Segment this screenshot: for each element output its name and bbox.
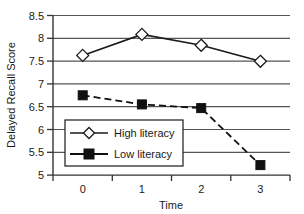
y-tick-label-6_5: 6.5: [29, 101, 44, 113]
x-tick-label-0: 0: [80, 183, 86, 195]
y-tick-label-8: 8: [38, 32, 44, 44]
x-tick-label-1: 1: [139, 183, 145, 195]
x-tick-label-2: 2: [198, 183, 204, 195]
low-literacy-point-2: [197, 104, 206, 113]
y-tick-label-5_5: 5.5: [29, 146, 44, 158]
delayed-recall-score-line-chart: 8.5 8 7.5 7 6.5 6 5.5 5 0 1 2 3 Time Del…: [0, 0, 304, 214]
chart-legend[interactable]: High literacy Low literacy: [65, 120, 183, 166]
y-axis-title: Delayed Recall Score: [5, 42, 17, 148]
low-literacy-point-1: [137, 100, 146, 109]
chart-figure: 8.5 8 7.5 7 6.5 6 5.5 5 0 1 2 3 Time Del…: [0, 0, 304, 214]
legend-entry-low-literacy[interactable]: Low literacy: [70, 148, 173, 160]
y-tick-label-5: 5: [38, 169, 44, 181]
y-tick-label-7: 7: [38, 78, 44, 90]
y-tick-label-8_5: 8.5: [29, 10, 44, 22]
x-axis-title: Time: [159, 199, 183, 211]
low-literacy-point-0: [78, 91, 87, 100]
y-tick-label-7_5: 7.5: [29, 55, 44, 67]
filled-square-icon: [84, 149, 94, 159]
x-tick-label-3: 3: [257, 183, 263, 195]
legend-label-low-literacy: Low literacy: [114, 148, 173, 160]
legend-label-high-literacy: High literacy: [114, 127, 175, 139]
low-literacy-point-3: [256, 161, 265, 170]
y-tick-label-6: 6: [38, 124, 44, 136]
